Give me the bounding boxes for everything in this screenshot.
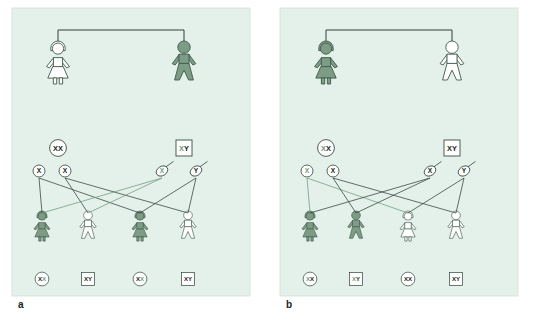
figure-torso xyxy=(53,58,62,67)
figure-torso xyxy=(405,223,411,230)
figure-head xyxy=(306,212,314,220)
figure-leg-right xyxy=(409,237,411,241)
figure-leg-left xyxy=(307,237,309,241)
genotype-label: XX xyxy=(53,144,63,153)
figure-head xyxy=(52,43,63,54)
figure-leg-left xyxy=(321,78,324,84)
figure-torso xyxy=(453,220,460,227)
figure-head xyxy=(38,212,46,220)
genotype-label: XY xyxy=(452,276,460,282)
genotype-label: XX xyxy=(38,276,46,282)
figure-head xyxy=(84,211,93,220)
figure-leg-left xyxy=(53,78,56,84)
genotype-label: XX xyxy=(136,276,144,282)
gamete-label: X xyxy=(37,167,42,174)
gamete-label: X xyxy=(331,167,336,174)
figure-head xyxy=(178,41,190,53)
figure-leg-right xyxy=(43,237,45,241)
figure-head xyxy=(320,43,331,54)
panel-background xyxy=(12,8,250,296)
figure-torso xyxy=(447,54,457,64)
gamete-label: X xyxy=(160,167,165,174)
figure-torso xyxy=(307,223,313,230)
genotype-label: XY xyxy=(179,144,189,153)
figure-leg-right xyxy=(59,78,62,84)
gamete-label: Y xyxy=(462,167,467,174)
inheritance-figure: XXXYXXXYXXXYXXXYaXXXYXXXYXXXYXXXYb xyxy=(0,0,535,323)
figure-head xyxy=(136,212,144,220)
figure-leg-right xyxy=(311,237,313,241)
figure-leg-right xyxy=(141,237,143,241)
genotype-label: XY xyxy=(184,276,192,282)
figure-torso xyxy=(137,223,143,230)
panel-letter-b: b xyxy=(286,299,292,310)
figure-canvas: XXXYXXXYXXXYXXXYaXXXYXXXYXXXYXXXYb xyxy=(0,0,535,323)
gamete-label: Y xyxy=(194,167,199,174)
genotype-label: XX xyxy=(306,276,314,282)
figure-leg-right xyxy=(327,78,330,84)
figure-torso xyxy=(179,54,189,64)
figure-torso xyxy=(39,223,45,230)
panel-a: XXXYXXXYXXXYXXXYa xyxy=(12,8,250,310)
genotype-label: XY xyxy=(84,276,92,282)
genotype-label: XX xyxy=(321,144,331,153)
panel-background xyxy=(280,8,518,296)
genotype-label: XY xyxy=(447,144,457,153)
figure-head xyxy=(404,212,412,220)
panel-letter-a: a xyxy=(18,299,24,310)
figure-leg-left xyxy=(405,237,407,241)
gamete-label: X xyxy=(63,167,68,174)
panel-b: XXXYXXXYXXXYXXXYb xyxy=(280,8,518,310)
gamete-label: X xyxy=(428,167,433,174)
figure-torso xyxy=(85,220,92,227)
figure-head xyxy=(352,211,361,220)
figure-torso xyxy=(321,58,330,67)
gamete-label: X xyxy=(305,167,310,174)
figure-torso xyxy=(185,220,192,227)
figure-leg-left xyxy=(39,237,41,241)
genotype-label: XY xyxy=(352,276,360,282)
figure-torso xyxy=(353,220,360,227)
genotype-label: XX xyxy=(404,276,412,282)
figure-leg-left xyxy=(137,237,139,241)
figure-head xyxy=(446,41,458,53)
